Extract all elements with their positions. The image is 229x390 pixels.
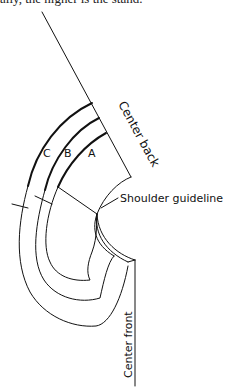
collar-c-upper-edge [28, 103, 92, 186]
collar-a-label: A [88, 147, 96, 160]
collar-a-upper-edge [58, 133, 106, 187]
center-front-label: Center front [122, 311, 135, 378]
center-back-label: Center back [115, 99, 162, 170]
shoulder-guideline-a [58, 187, 97, 214]
collar-c-neck-edge [97, 214, 135, 260]
center-back-line [42, 12, 131, 177]
collar-b-label: B [64, 147, 72, 160]
shoulder-guideline-label: Shoulder guideline [120, 192, 223, 205]
collar-diagram: Center back Shoulder guideline Center fr… [0, 0, 229, 390]
collar-a-outline [46, 187, 97, 280]
shoulder-guideline-c [12, 204, 28, 208]
collar-c-outline [19, 186, 128, 326]
shoulder-guideline-leader [101, 198, 118, 208]
collar-c-label: C [43, 147, 51, 160]
center-front-bend [128, 260, 135, 262]
collar-b-outline [36, 190, 114, 300]
